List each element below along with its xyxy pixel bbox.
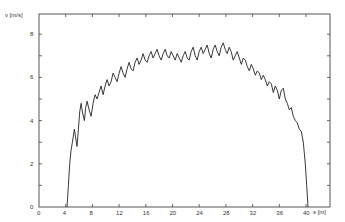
x-tick-label: 12: [116, 210, 123, 216]
y-axis-ticks: 02468: [30, 31, 42, 210]
x-tick-label: 8: [89, 210, 93, 216]
x-tick-label: 32: [250, 210, 257, 216]
x-tick-label: 20: [170, 210, 177, 216]
x-tick-label: 0: [37, 210, 41, 216]
x-tick-label: 28: [223, 210, 230, 216]
plot-frame: [39, 14, 330, 207]
velocity-curve: [67, 43, 308, 207]
right-frame-ticks: [327, 34, 330, 185]
x-tick-label: 4: [63, 210, 67, 216]
x-tick-label: 40: [303, 210, 310, 216]
y-tick-label: 2: [30, 161, 34, 167]
y-axis-label: v [m/s]: [5, 12, 23, 18]
x-axis-ticks: 0481216202428323640: [37, 204, 310, 216]
velocity-chart: 0481216202428323640 02468 v [m/s] s [m]: [0, 0, 345, 222]
x-tick-label: 36: [276, 210, 283, 216]
y-tick-label: 8: [30, 31, 34, 37]
y-tick-label: 0: [30, 204, 34, 210]
y-tick-label: 6: [30, 74, 34, 80]
x-tick-label: 16: [143, 210, 150, 216]
y-tick-label: 4: [30, 118, 34, 124]
x-axis-label: s [m]: [313, 209, 326, 215]
x-tick-label: 24: [196, 210, 203, 216]
